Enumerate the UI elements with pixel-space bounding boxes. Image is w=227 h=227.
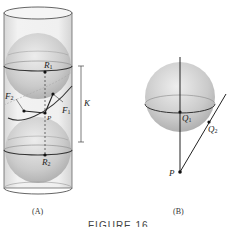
label-p-b: P <box>169 169 175 178</box>
label-p-a: P <box>47 115 51 122</box>
lower-sphere <box>5 117 71 183</box>
figure-title: FIGURE 16 <box>88 221 149 227</box>
label-f2: F2 <box>5 92 14 101</box>
label-q2: Q2 <box>208 125 218 134</box>
caption-b: (B) <box>173 208 184 216</box>
cylinder-bottom-ellipse <box>4 188 72 194</box>
upper-sphere <box>5 33 71 99</box>
label-q1: Q1 <box>182 114 192 123</box>
figure-svg <box>0 0 227 227</box>
label-r1: R1 <box>44 61 53 70</box>
label-r2: R2 <box>42 158 51 167</box>
label-k: K <box>84 99 90 108</box>
caption-a: (A) <box>32 208 43 216</box>
label-f1: F1 <box>62 106 71 115</box>
cylinder-top-ellipse <box>4 7 72 19</box>
